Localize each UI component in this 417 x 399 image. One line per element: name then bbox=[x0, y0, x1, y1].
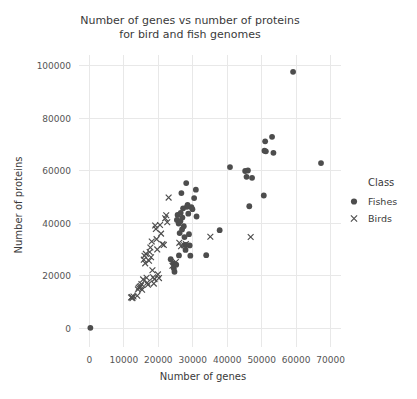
x-axis-tick-labels: 010000200003000040000500006000070000 bbox=[86, 355, 345, 365]
data-point-fish bbox=[203, 252, 209, 258]
data-point-fish bbox=[271, 150, 277, 156]
legend-entries: FishesBirds bbox=[351, 196, 397, 224]
data-point-fish bbox=[183, 180, 189, 186]
data-point-fish bbox=[187, 253, 193, 259]
x-tick-label: 0 bbox=[86, 355, 92, 365]
y-tick-label: 40000 bbox=[42, 219, 71, 229]
data-point-fish bbox=[194, 214, 200, 220]
data-point-bird bbox=[158, 231, 164, 237]
data-point-fish bbox=[87, 325, 93, 331]
legend-label-birds: Birds bbox=[368, 213, 392, 224]
x-tick-label: 60000 bbox=[282, 355, 311, 365]
data-point-fish bbox=[318, 160, 324, 166]
y-tick-label: 100000 bbox=[37, 61, 72, 71]
y-tick-label: 20000 bbox=[42, 271, 71, 281]
data-point-fish bbox=[172, 269, 178, 275]
scatter-plot: 010000200003000040000500006000070000 020… bbox=[0, 0, 417, 399]
x-axis-title: Number of genes bbox=[160, 371, 246, 382]
x-tick-label: 40000 bbox=[213, 355, 242, 365]
data-point-fish bbox=[269, 134, 275, 140]
gridlines bbox=[79, 55, 341, 347]
x-tick-label: 30000 bbox=[178, 355, 207, 365]
data-point-fish bbox=[186, 231, 192, 237]
data-point-bird bbox=[248, 234, 254, 240]
data-point-fish bbox=[246, 203, 252, 209]
data-point-bird bbox=[150, 267, 156, 273]
y-axis-tick-labels: 020000400006000080000100000 bbox=[37, 61, 72, 334]
y-axis-title: Number of proteins bbox=[13, 157, 24, 254]
legend-marker-birds bbox=[351, 215, 357, 221]
data-point-fish bbox=[180, 215, 186, 221]
data-point-bird bbox=[154, 247, 160, 253]
legend-title: Class bbox=[368, 177, 394, 188]
data-point-fish bbox=[190, 206, 196, 212]
y-tick-label: 0 bbox=[65, 324, 71, 334]
data-point-fish bbox=[244, 174, 250, 180]
data-point-fish bbox=[217, 227, 223, 233]
data-point-fish bbox=[245, 168, 251, 174]
data-points bbox=[87, 69, 323, 331]
data-point-fish bbox=[193, 187, 199, 193]
y-tick-label: 60000 bbox=[42, 166, 71, 176]
x-tick-label: 70000 bbox=[316, 355, 345, 365]
data-point-fish bbox=[261, 193, 267, 199]
data-point-fish bbox=[262, 138, 268, 144]
data-point-bird bbox=[166, 195, 172, 201]
x-tick-label: 50000 bbox=[247, 355, 276, 365]
data-point-fish bbox=[263, 148, 269, 154]
data-point-fish bbox=[178, 190, 184, 196]
data-point-bird bbox=[147, 245, 153, 251]
legend-marker-fishes bbox=[351, 198, 357, 204]
data-point-bird bbox=[207, 234, 213, 240]
data-point-fish bbox=[181, 223, 187, 229]
data-point-fish bbox=[290, 69, 296, 75]
data-point-fish bbox=[185, 211, 191, 217]
legend-label-fishes: Fishes bbox=[368, 196, 397, 207]
x-tick-label: 20000 bbox=[144, 355, 173, 365]
data-point-fish bbox=[227, 164, 233, 170]
chart-figure: Number of genes vs number of proteins fo… bbox=[0, 0, 417, 399]
data-point-fish bbox=[249, 175, 255, 181]
data-point-fish bbox=[176, 253, 182, 259]
data-point-fish bbox=[191, 195, 197, 201]
legend: Class FishesBirds bbox=[351, 177, 397, 224]
y-tick-label: 80000 bbox=[42, 114, 71, 124]
x-tick-label: 10000 bbox=[109, 355, 138, 365]
